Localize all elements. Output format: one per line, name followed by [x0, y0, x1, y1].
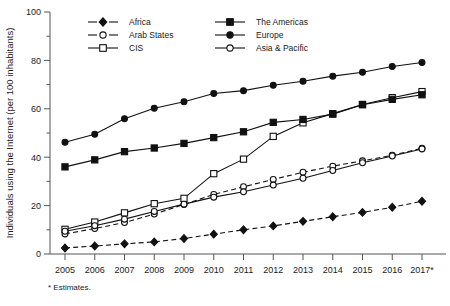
data-point-marker: [62, 164, 68, 170]
data-point-marker: [211, 134, 217, 140]
footnote: * Estimates.: [48, 283, 91, 292]
data-point-marker: [121, 240, 128, 248]
data-point-marker: [210, 230, 217, 238]
data-point-marker: [211, 194, 217, 200]
data-point-marker: [121, 149, 127, 155]
legend-item-arab-states[interactable]: Arab States: [88, 30, 173, 40]
x-tick-label: 2011: [234, 265, 253, 275]
y-tick-label: 80: [31, 56, 41, 66]
data-point-marker: [100, 45, 107, 52]
data-point-marker: [419, 60, 425, 66]
data-point-marker: [180, 235, 187, 243]
series-path: [65, 201, 422, 248]
legend-label: The Americas: [256, 17, 308, 27]
x-tick-label: 2017*: [410, 265, 434, 275]
data-point-marker: [241, 88, 247, 94]
data-point-marker: [359, 102, 365, 108]
data-point-marker: [92, 157, 98, 163]
data-point-marker: [419, 92, 425, 98]
data-point-marker: [240, 156, 246, 162]
legend-label: Asia & Pacific: [256, 43, 309, 53]
y-axis-title: Individuals using the Internet (per 100 …: [4, 28, 15, 239]
legend-item-cis[interactable]: CIS: [88, 43, 144, 53]
data-point-marker: [92, 223, 98, 229]
data-point-marker: [151, 145, 157, 151]
data-point-marker: [181, 195, 187, 201]
x-tick-label: 2005: [55, 265, 75, 275]
data-point-marker: [270, 119, 276, 125]
x-tick-label: 2012: [263, 265, 283, 275]
data-point-marker: [211, 171, 217, 177]
x-tick-label: 2016: [382, 265, 402, 275]
data-point-marker: [329, 213, 336, 221]
data-point-marker: [270, 82, 276, 88]
data-point-marker: [419, 146, 425, 152]
data-point-marker: [151, 201, 157, 207]
legend-label: Africa: [129, 17, 151, 27]
y-tick-label: 20: [31, 201, 41, 211]
data-point-marker: [389, 96, 395, 102]
legend-item-europe[interactable]: Europe: [215, 30, 284, 40]
data-point-marker: [300, 78, 306, 84]
x-tick-label: 2013: [293, 265, 313, 275]
legend-item-africa[interactable]: Africa: [88, 17, 151, 27]
data-point-marker: [240, 129, 246, 135]
chart-canvas: 0204060801002005200620072008200920102011…: [0, 0, 450, 306]
data-point-marker: [270, 182, 276, 188]
legend-label: CIS: [129, 43, 144, 53]
data-point-marker: [299, 217, 306, 225]
data-point-marker: [181, 201, 187, 207]
x-tick-label: 2006: [85, 265, 105, 275]
data-point-marker: [99, 18, 107, 26]
data-point-marker: [300, 175, 306, 181]
x-tick-label: 2007: [114, 265, 134, 275]
data-point-marker: [122, 216, 128, 222]
data-point-marker: [270, 133, 276, 139]
legend-label: Europe: [256, 30, 284, 40]
data-point-marker: [241, 189, 247, 195]
data-point-marker: [330, 168, 336, 174]
series-group: [61, 60, 425, 252]
data-point-marker: [181, 99, 187, 105]
data-point-marker: [227, 19, 234, 26]
data-point-marker: [151, 208, 157, 214]
x-tick-label: 2009: [174, 265, 194, 275]
legend-label: Arab States: [129, 30, 173, 40]
data-point-marker: [62, 228, 68, 234]
data-point-marker: [91, 242, 98, 250]
data-point-marker: [330, 111, 336, 117]
data-point-marker: [227, 45, 233, 51]
data-point-marker: [359, 209, 366, 217]
data-point-marker: [151, 238, 158, 246]
y-tick-label: 40: [31, 153, 41, 163]
legend-item-asia-pacific[interactable]: Asia & Pacific: [215, 43, 309, 53]
data-point-marker: [122, 116, 128, 122]
data-point-marker: [61, 244, 68, 252]
data-point-marker: [300, 116, 306, 122]
data-point-marker: [92, 131, 98, 137]
y-tick-label: 0: [36, 249, 41, 259]
data-point-marker: [389, 153, 395, 159]
data-point-marker: [360, 160, 366, 166]
data-point-marker: [62, 139, 68, 145]
legend-item-the-americas[interactable]: The Americas: [215, 17, 308, 27]
data-point-marker: [389, 64, 395, 70]
data-point-marker: [330, 73, 336, 79]
data-point-marker: [227, 32, 233, 38]
data-point-marker: [100, 32, 106, 38]
data-point-marker: [240, 226, 247, 234]
data-point-marker: [418, 197, 425, 205]
x-tick-label: 2014: [323, 265, 343, 275]
internet-usage-line-chart: 0204060801002005200620072008200920102011…: [0, 0, 450, 306]
data-point-marker: [121, 210, 127, 216]
x-tick-label: 2008: [144, 265, 164, 275]
data-point-marker: [181, 140, 187, 146]
data-point-marker: [151, 105, 157, 111]
data-point-marker: [270, 177, 276, 183]
y-tick-label: 100: [26, 7, 41, 17]
data-point-marker: [211, 91, 217, 97]
data-point-marker: [389, 203, 396, 211]
x-tick-label: 2010: [204, 265, 224, 275]
data-point-marker: [360, 69, 366, 75]
data-point-marker: [300, 169, 306, 175]
